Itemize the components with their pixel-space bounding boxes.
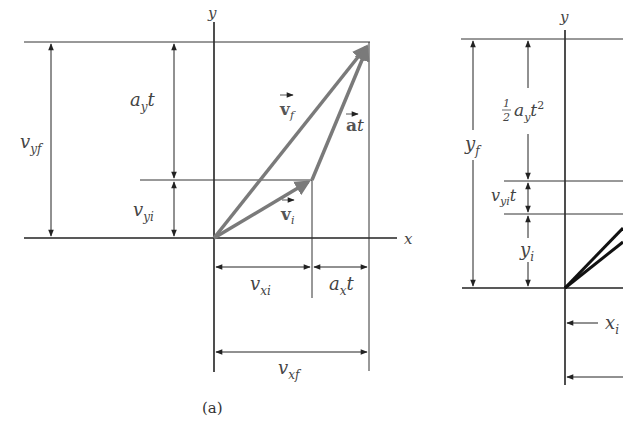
y-axis-label: y [207,4,217,22]
vi-vector [214,182,308,238]
position-vector-f [565,228,623,288]
figure-b: y yf 1 2 ayt2 vyit yi xi [461,8,623,385]
kinematics-diagram: y x vyf ayt vyi vxi axt vxf vf [0,0,623,433]
vi-vector-label: vi [280,200,294,227]
y-axis-label-b: y [559,8,569,26]
yf-label: yf [464,133,482,158]
yi-label: yi [519,239,534,264]
vf-vector-label: vf [279,95,296,122]
svg-text:ayt2: ayt2 [514,99,544,124]
x-axis-label: x [404,230,413,248]
vxi-label: vxi [250,273,271,298]
svg-text:1: 1 [503,97,510,110]
figure-a: y x vyf ayt vyi vxi axt vxf vf [20,4,413,417]
axt-label: axt [329,273,355,298]
ayt-label: ayt [130,89,156,114]
vyf-label: vyf [20,131,44,156]
position-vector-i [565,242,623,288]
figure-a-caption: (a) [202,399,223,417]
svg-text:at: at [346,115,364,135]
svg-text:vi: vi [280,204,294,227]
vxf-label: vxf [278,357,302,382]
at-vector-label: at [346,114,364,135]
half-ayt2-label: 1 2 ayt2 [502,97,544,124]
at-vector [312,48,367,180]
svg-text:vf: vf [279,99,296,122]
svg-text:2: 2 [502,111,510,124]
vyi-label: vyi [133,199,154,224]
vyit-label: vyit [491,186,517,208]
xi-label: xi [605,312,619,337]
